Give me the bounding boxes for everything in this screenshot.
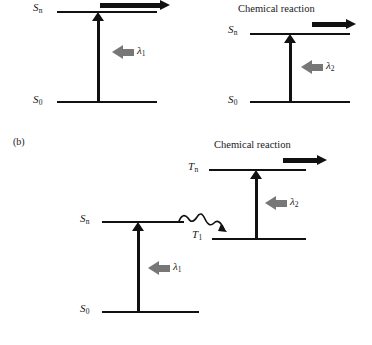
excitation-arrow-a-left: [91, 12, 105, 101]
wavelength-arrow-lambda2-b: [265, 196, 287, 211]
energy-level-figure: Sn λ1 S0 Chemical reaction Sn: [0, 0, 372, 345]
state-label-s0-a-right: S0: [228, 94, 238, 106]
state-label-t1-b: T1: [192, 229, 202, 241]
wavelength-arrow-lambda1-b: [148, 261, 170, 276]
state-label-tn-b: Tn: [188, 161, 198, 173]
state-label-sn-a-left: Sn: [33, 2, 43, 14]
chemical-reaction-caption-a-right: Chemical reaction: [238, 3, 315, 14]
excitation-arrow-a-right: [283, 34, 297, 101]
lambda-label-2-a-right: λ2: [326, 59, 335, 73]
state-label-s0-b: S0: [80, 303, 90, 315]
panel-b-label: (b): [13, 136, 25, 147]
energy-level-sn-a-right: [250, 33, 350, 35]
energy-level-t1-b: [212, 238, 306, 240]
state-label-s0-a-left: S0: [33, 94, 43, 106]
state-label-sn-b: Sn: [80, 213, 90, 225]
excitation-arrow-lambda1-b: [131, 222, 145, 311]
energy-level-s0-b: [102, 311, 199, 313]
energy-level-sn-a-left: [57, 11, 157, 13]
chemical-reaction-arrow-a-right: [312, 19, 367, 30]
excitation-arrow-lambda2-b: [249, 170, 263, 239]
energy-level-s0-a-left: [57, 101, 157, 103]
chemical-reaction-arrow-b: [283, 155, 338, 166]
lambda-label-2-b: λ2: [290, 195, 299, 209]
state-label-sn-a-right: Sn: [228, 24, 238, 36]
wavelength-arrow-lambda2-a-right: [301, 60, 323, 75]
wavelength-arrow-lambda1-a-left: [112, 45, 134, 60]
lambda-label-1-a-left: λ1: [137, 44, 146, 58]
energy-level-s0-a-right: [250, 101, 350, 103]
lambda-label-1-b: λ1: [173, 260, 182, 274]
chemical-reaction-caption-b: Chemical reaction: [214, 139, 291, 150]
chemical-reaction-arrow-a-left: [100, 0, 172, 11]
